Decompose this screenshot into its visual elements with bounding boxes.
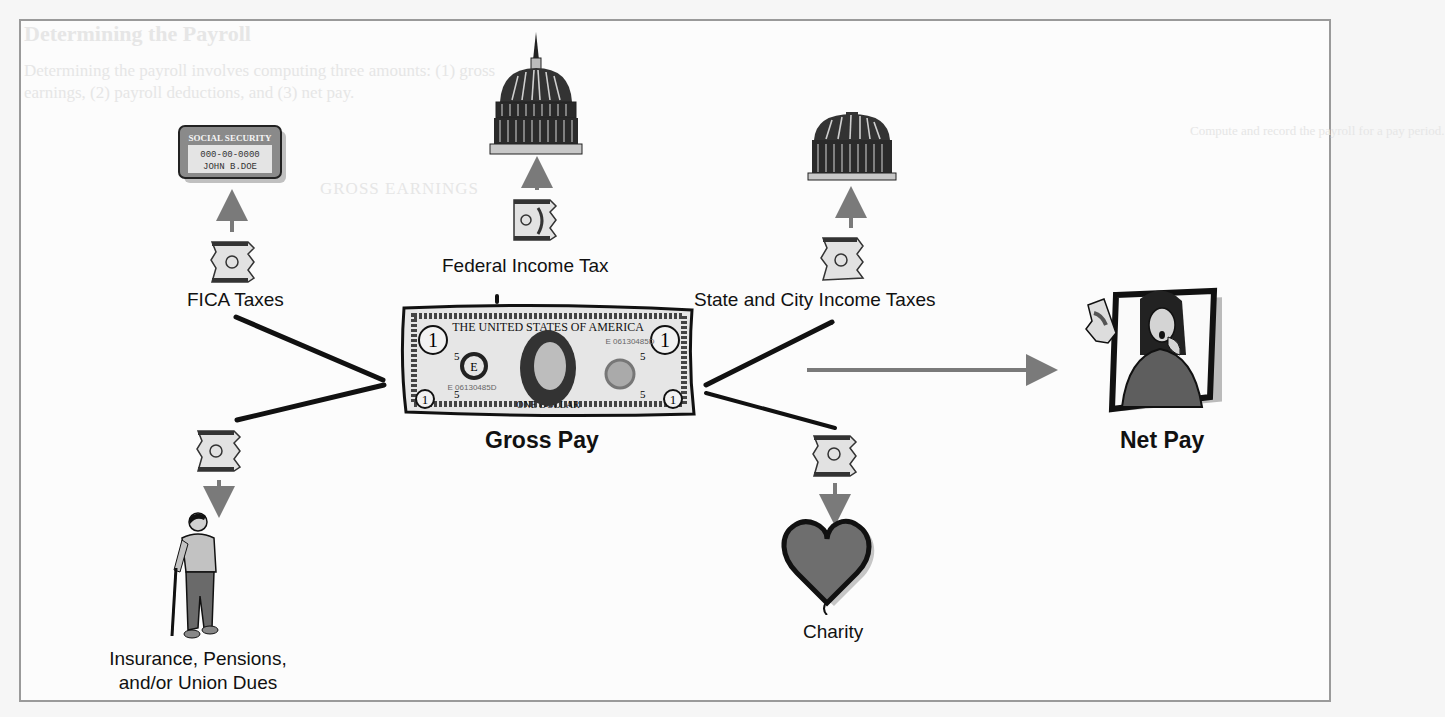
social-security-card-icon: SOCIAL SECURITY 000-00-0000 JOHN B.DOE [178,125,288,189]
insurance-label-line-2: and/or Union Dues [80,671,316,695]
net-pay-label: Net Pay [1120,427,1204,454]
svg-text:1: 1 [660,329,670,351]
elderly-man-with-cane-icon [168,510,238,649]
woman-holding-money-icon [1082,285,1222,429]
svg-text:1: 1 [670,392,677,407]
svg-text:1: 1 [422,392,429,407]
federal-income-tax-label: Federal Income Tax [442,255,609,277]
torn-bill-state-icon [819,234,865,288]
svg-text:5: 5 [454,388,460,400]
fica-taxes-label: FICA Taxes [187,289,284,311]
dollar-bill-icon: THE UNITED STATES OF AMERICA ONE DOLLAR … [398,302,700,426]
state-city-income-taxes-label: State and City Income Taxes [694,289,936,311]
torn-bill-insurance-icon [196,427,242,479]
svg-text:JOHN B.DOE: JOHN B.DOE [203,162,257,172]
svg-text:5: 5 [640,388,646,400]
insurance-pensions-dues-label: Insurance, Pensions, and/or Union Dues [80,647,316,695]
gross-pay-label: Gross Pay [485,427,599,454]
insurance-label-line-1: Insurance, Pensions, [80,647,316,671]
svg-text:E: E [470,360,477,374]
svg-text:E 06130485D: E 06130485D [606,337,655,346]
torn-bill-fica-icon [210,238,256,290]
torn-bill-charity-icon [812,432,858,484]
svg-text:1: 1 [428,329,438,351]
heart-icon [777,515,877,619]
capitol-dome-icon [488,30,584,162]
svg-text:5: 5 [640,350,646,362]
torn-bill-federal-icon [512,196,558,248]
svg-text:000-00-0000: 000-00-0000 [200,150,259,160]
small-dome-icon [804,110,900,186]
svg-text:5: 5 [454,350,460,362]
svg-text:SOCIAL SECURITY: SOCIAL SECURITY [189,133,272,143]
charity-label: Charity [803,621,863,643]
